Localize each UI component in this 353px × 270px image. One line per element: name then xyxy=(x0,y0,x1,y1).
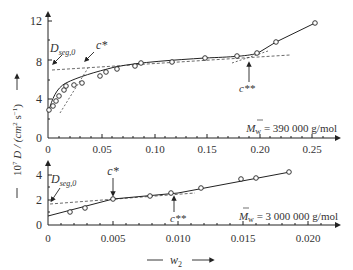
diffusion-charts: 12 8 4 0 0 0.05 0.10 0.15 0.20 0.25 xyxy=(0,0,353,270)
top-x-tick: 0.25 xyxy=(302,143,322,155)
top-mw-annotation: Mw = 390 000 g/mol xyxy=(245,122,337,136)
top-x-tick: 0.20 xyxy=(250,143,270,155)
bottom-cstarstar-label: c** xyxy=(170,212,186,224)
bottom-x-tick: 0.020 xyxy=(296,232,321,244)
top-fit-curve xyxy=(49,23,315,110)
bottom-x-tick: 0 xyxy=(45,232,51,244)
x-axis-label: w2 xyxy=(147,253,212,269)
svg-text:w2: w2 xyxy=(170,253,182,269)
svg-text:107 D / (cm2 s−1): 107 D / (cm2 s−1) xyxy=(11,104,24,176)
bottom-y-tick: 2 xyxy=(36,193,42,207)
bottom-x-tick: 0.010 xyxy=(166,232,191,244)
bottom-dseg-arrow xyxy=(52,188,60,200)
top-data-points xyxy=(47,21,318,113)
top-y-tick: 12 xyxy=(30,14,42,28)
top-dseg-label: Dseg,0 xyxy=(49,41,75,57)
top-cstar-label: c* xyxy=(96,38,107,52)
top-y-tick: 0 xyxy=(36,131,42,145)
top-x-tick: 0.10 xyxy=(145,143,165,155)
bottom-cstar-label: c* xyxy=(107,164,118,178)
bottom-x-tick: 0.005 xyxy=(101,232,126,244)
top-cstar-arrow xyxy=(86,52,94,60)
top-y-tick: 4 xyxy=(36,92,42,106)
bottom-dseg-label: Dseg,0 xyxy=(50,172,76,188)
top-chart: 12 8 4 0 0 0.05 0.10 0.15 0.20 0.25 xyxy=(30,14,338,155)
bottom-x-tick: 0.015 xyxy=(231,232,256,244)
bottom-data-points xyxy=(68,170,292,215)
y-axis-label: 107 D / (cm2 s−1) xyxy=(11,76,24,198)
bottom-chart: 4 2 0 0 0.005 0.010 0.015 0.020 Dseg,0 c… xyxy=(36,163,338,244)
bottom-y-tick: 4 xyxy=(36,168,42,182)
top-x-tick: 0.15 xyxy=(197,143,217,155)
top-y-tick: 8 xyxy=(36,55,42,69)
top-x-tick: 0 xyxy=(45,143,51,155)
top-cstarstar-label: c** xyxy=(239,82,255,94)
bottom-y-tick: 0 xyxy=(36,218,42,232)
top-x-tick: 0.05 xyxy=(92,143,112,155)
bottom-mw-annotation: Mw = 3 000 000 g/mol xyxy=(238,210,338,224)
